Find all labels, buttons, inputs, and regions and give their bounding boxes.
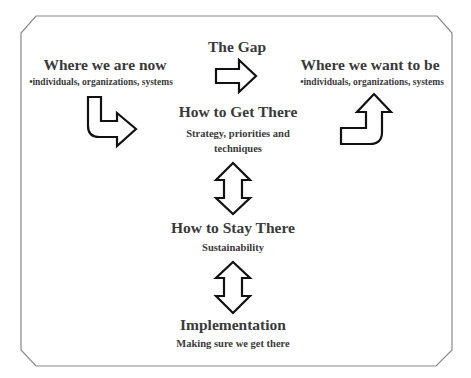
bent-right-up-arrow-icon [341,94,391,144]
target-state-subtitle: •individuals, organizations, systems [292,77,452,87]
gap-title: The Gap [192,38,282,56]
implementation-subtitle: Making sure we get there [163,336,303,351]
current-state-subtitle: •individuals, organizations, systems [26,77,176,87]
how-to-get-there-title: How to Get There [168,103,308,121]
gap-right-arrow-icon [216,60,256,92]
bent-down-right-arrow-icon [88,97,136,146]
vertical-double-arrow-2-icon [216,262,250,313]
how-to-get-there-line1: Strategy, priorities and [168,126,308,141]
implementation-title: Implementation [168,316,298,334]
current-state-title: Where we are now [40,56,170,74]
vertical-double-arrow-1-icon [216,163,250,214]
target-state-title: Where we want to be [300,56,440,74]
how-to-stay-there-subtitle: Sustainability [163,240,303,255]
how-to-stay-there-title: How to Stay There [163,219,303,237]
how-to-get-there-line2: techniques [168,141,308,156]
